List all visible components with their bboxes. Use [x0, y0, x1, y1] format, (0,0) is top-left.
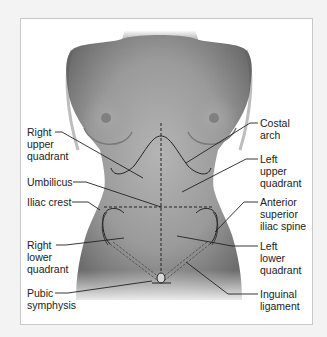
pubic-symphysis-shape: [157, 273, 165, 283]
label-right-lower-quadrant: Right lower quadrant: [27, 239, 68, 275]
label-left-lower-quadrant: Left lower quadrant: [260, 240, 301, 276]
label-inguinal-ligament: Inguinal ligament: [260, 288, 300, 312]
label-costal-arch: Costal arch: [260, 117, 290, 141]
label-umbilicus: Umbilicus: [27, 176, 73, 188]
label-right-upper-quadrant: Right upper quadrant: [27, 126, 68, 162]
left-areola: [209, 113, 219, 123]
label-left-upper-quadrant: Left upper quadrant: [260, 153, 301, 189]
label-iliac-crest: Iliac crest: [27, 196, 71, 208]
label-pubic-symphysis: Pubic symphysis: [27, 287, 76, 311]
label-anterior-superior-iliac-spine: Anterior superior iliac spine: [260, 196, 306, 232]
right-areola: [101, 113, 111, 123]
torso-silhouette: [66, 35, 252, 300]
